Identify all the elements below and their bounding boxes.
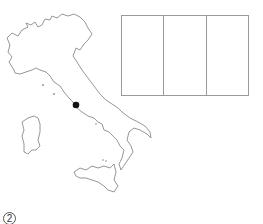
sicily-outline [74, 164, 118, 192]
flag-stripe-right [206, 16, 248, 95]
capital-marker [73, 102, 80, 109]
sardinia-outline [22, 116, 40, 154]
item-number-badge: 2 [3, 212, 16, 224]
flag-stripe-middle [163, 16, 205, 95]
flag-outline [121, 15, 249, 96]
flag-stripe-left [122, 16, 163, 95]
